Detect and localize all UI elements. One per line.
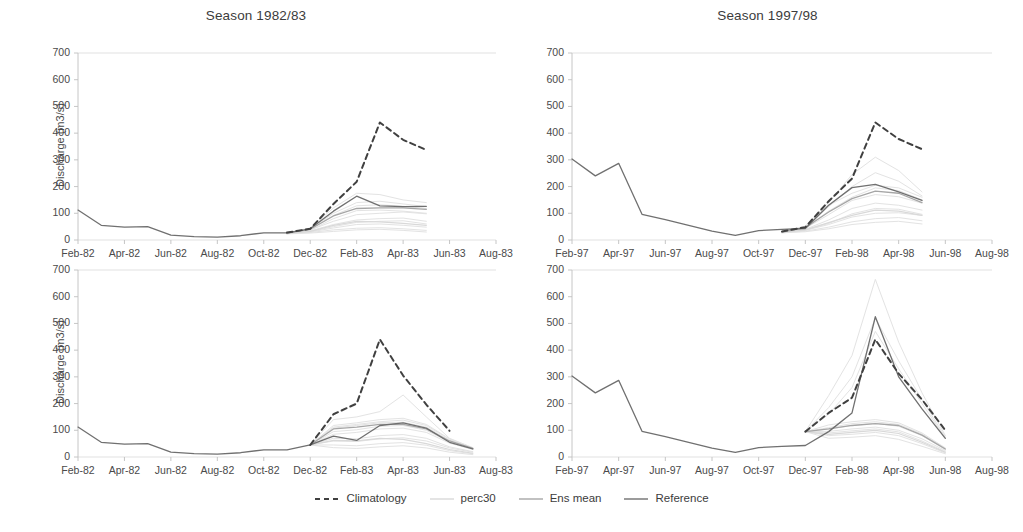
legend-item-reference[interactable]: Reference bbox=[623, 493, 708, 505]
chart-panel-panel-bottom-right: 0100200300400500600700Feb-97Apr-97Jun-97… bbox=[512, 262, 1023, 484]
plot-area-panel-top-left bbox=[0, 8, 512, 266]
ensemble-member-line bbox=[805, 331, 945, 438]
ensemble-member-line bbox=[782, 173, 922, 232]
series-line-climatology bbox=[805, 339, 945, 431]
series-line-climatology bbox=[287, 122, 426, 232]
plot-area-panel-bottom-right bbox=[512, 262, 1023, 484]
plot-area-panel-bottom-left bbox=[0, 262, 512, 484]
legend-swatch-dashed-line-icon bbox=[314, 494, 340, 504]
legend-item-climatology[interactable]: Climatology bbox=[314, 493, 406, 505]
legend-item-perc30[interactable]: perc30 bbox=[429, 493, 496, 505]
legend-label: Reference bbox=[655, 493, 708, 505]
figure-root: Season 1982/83Discharge (m3/s)0100200300… bbox=[0, 0, 1023, 532]
plot-area-panel-top-right bbox=[512, 8, 1023, 266]
legend-item-ens-mean[interactable]: Ens mean bbox=[518, 493, 602, 505]
chart-legend: Climatologyperc30Ens meanReference bbox=[0, 488, 1023, 510]
legend-swatch-solid-line-icon bbox=[623, 494, 649, 504]
chart-panel-panel-bottom-left: Discharge (m3/s)0100200300400500600700Fe… bbox=[0, 262, 512, 484]
series-line-reference bbox=[78, 196, 426, 237]
ensemble-member-line bbox=[287, 193, 426, 233]
legend-label: Ens mean bbox=[550, 493, 602, 505]
series-line-perc30 bbox=[287, 221, 426, 233]
legend-label: perc30 bbox=[461, 493, 496, 505]
legend-swatch-solid-line-icon bbox=[429, 494, 455, 504]
series-line-reference bbox=[572, 159, 922, 235]
chart-panel-panel-top-right: Season 1997/980100200300400500600700Feb-… bbox=[512, 8, 1023, 266]
legend-label: Climatology bbox=[346, 493, 406, 505]
legend-swatch-solid-line-icon bbox=[518, 494, 544, 504]
chart-panel-panel-top-left: Season 1982/83Discharge (m3/s)0100200300… bbox=[0, 8, 512, 266]
